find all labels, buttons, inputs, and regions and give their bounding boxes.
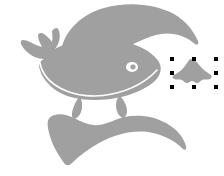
whale-silhouette[interactable] <box>21 28 161 119</box>
handle-middle-right[interactable] <box>214 71 218 75</box>
handle-bottom-right[interactable] <box>214 85 218 89</box>
whale-pectoral-fin <box>72 96 82 119</box>
selected-small-shape-path[interactable] <box>173 59 212 83</box>
artwork-layer <box>0 0 224 176</box>
bottom-crescent-shape[interactable] <box>48 114 187 165</box>
whale-body <box>39 39 161 100</box>
handle-top-center[interactable] <box>192 57 196 61</box>
selected-small-shape[interactable] <box>173 59 212 83</box>
handle-middle-left[interactable] <box>170 71 174 75</box>
handle-top-right[interactable] <box>214 57 218 61</box>
handle-bottom-center[interactable] <box>192 85 196 89</box>
handle-top-left[interactable] <box>170 57 174 61</box>
vector-canvas[interactable] <box>0 0 224 176</box>
whale-eye-pupil <box>130 65 135 70</box>
whale-ventral-fin <box>116 96 127 118</box>
handle-bottom-left[interactable] <box>170 85 174 89</box>
bottom-crescent-path[interactable] <box>48 114 187 165</box>
